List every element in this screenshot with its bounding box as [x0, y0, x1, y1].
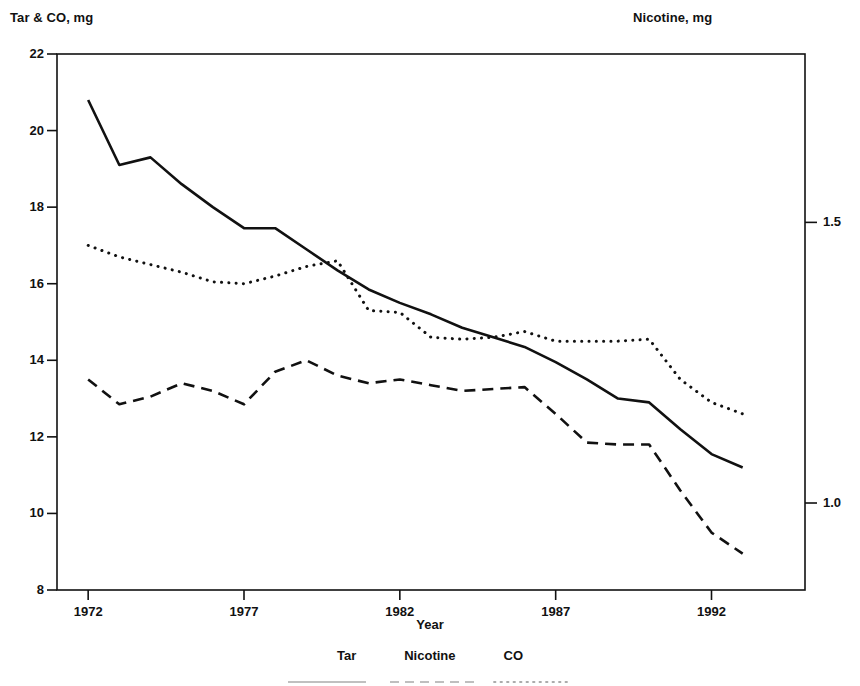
left-tick-label: 14	[14, 352, 44, 367]
plot-canvas	[0, 0, 860, 686]
left-tick-label: 10	[14, 505, 44, 520]
left-tick-label: 12	[14, 429, 44, 444]
legend-item-tar: Tar	[337, 648, 356, 663]
left-tick-label: 20	[14, 123, 44, 138]
left-axis-title: Tar & CO, mg	[10, 10, 93, 25]
plot-frame	[57, 54, 805, 590]
right-tick-label: 1.0	[823, 495, 857, 510]
plot-border	[57, 54, 805, 590]
left-tick-label: 16	[14, 276, 44, 291]
left-tick-label: 8	[14, 582, 44, 597]
left-axis-ticks	[47, 54, 57, 590]
series-line-nicotine	[88, 360, 743, 553]
series-line-tar	[88, 100, 743, 468]
x-axis-title: Year	[0, 617, 860, 632]
legend-item-nicotine: Nicotine	[404, 648, 455, 663]
series-line-co	[88, 245, 743, 413]
left-tick-label: 22	[14, 46, 44, 61]
data-series-layer	[88, 100, 743, 554]
chart-legend: TarNicotineCO	[0, 648, 860, 663]
chart-figure: Tar & CO, mg Nicotine, mg 81012141618202…	[0, 0, 860, 686]
x-axis-ticks	[88, 590, 711, 600]
right-tick-label: 1.5	[823, 214, 857, 229]
legend-sample-lines	[280, 681, 580, 683]
left-tick-label: 18	[14, 199, 44, 214]
right-axis-ticks	[805, 0, 817, 503]
right-axis-title: Nicotine, mg	[633, 10, 712, 25]
legend-item-co: CO	[504, 648, 524, 663]
